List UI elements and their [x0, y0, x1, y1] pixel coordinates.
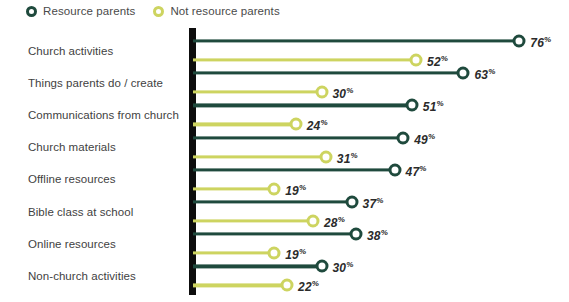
data-value-label: 31%: [337, 150, 358, 165]
data-value-label: 51%: [423, 99, 444, 114]
data-value-label: 38%: [367, 228, 388, 243]
lollipop-stem: [193, 168, 395, 171]
data-point-marker[interactable]: [513, 35, 526, 48]
data-point-marker[interactable]: [268, 247, 281, 260]
category-label: Non-church activities: [28, 270, 186, 282]
category-label: Church materials: [28, 141, 186, 153]
data-point-marker[interactable]: [319, 150, 332, 163]
data-point-marker[interactable]: [405, 99, 418, 112]
category-label: Communications from church: [28, 109, 186, 121]
data-value-label: 19%: [285, 182, 306, 197]
data-value-label: 76%: [530, 35, 551, 50]
data-point-marker[interactable]: [410, 54, 423, 67]
category-label: Things parents do / create: [28, 77, 186, 89]
lollipop-stem: [193, 58, 417, 61]
data-point-marker[interactable]: [268, 182, 281, 195]
axis-baseline: [189, 28, 196, 295]
category-label: Online resources: [28, 238, 186, 250]
lollipop-stem: [193, 187, 275, 190]
data-value-label: 30%: [333, 260, 354, 275]
data-point-marker[interactable]: [345, 196, 358, 209]
data-value-label: 47%: [406, 163, 427, 178]
data-point-marker[interactable]: [457, 67, 470, 80]
lollipop-stem: [193, 91, 322, 94]
lollipop-stem: [193, 155, 326, 158]
data-point-marker[interactable]: [289, 118, 302, 131]
lollipop-stem: [193, 39, 520, 42]
data-point-marker[interactable]: [349, 228, 362, 241]
data-value-label: 28%: [324, 215, 345, 230]
data-point-marker[interactable]: [388, 163, 401, 176]
data-point-marker[interactable]: [397, 131, 410, 144]
data-point-marker[interactable]: [315, 86, 328, 99]
lollipop-stem: [193, 123, 296, 126]
data-value-label: 49%: [414, 131, 435, 146]
data-value-label: 52%: [427, 54, 448, 69]
paired-lollipop-chart: 76%52%63%30%51%24%49%31%47%19%37%28%38%1…: [0, 0, 569, 302]
lollipop-stem: [193, 219, 313, 222]
data-value-label: 19%: [285, 247, 306, 262]
lollipop-stem: [193, 265, 322, 268]
lollipop-stem: [193, 233, 356, 236]
lollipop-stem: [193, 200, 352, 203]
data-value-label: 24%: [307, 118, 328, 133]
category-label: Bible class at school: [28, 206, 186, 218]
category-label: Offline resources: [28, 173, 186, 185]
data-value-label: 30%: [333, 86, 354, 101]
data-value-label: 37%: [363, 196, 384, 211]
lollipop-stem: [193, 284, 288, 287]
lollipop-stem: [193, 104, 412, 107]
data-point-marker[interactable]: [306, 215, 319, 228]
data-point-marker[interactable]: [315, 260, 328, 273]
lollipop-stem: [193, 136, 404, 139]
data-value-label: 22%: [298, 279, 319, 294]
data-point-marker[interactable]: [281, 279, 294, 292]
lollipop-stem: [193, 72, 464, 75]
category-label: Church activities: [28, 45, 186, 57]
data-value-label: 63%: [474, 67, 495, 82]
lollipop-stem: [193, 252, 275, 255]
